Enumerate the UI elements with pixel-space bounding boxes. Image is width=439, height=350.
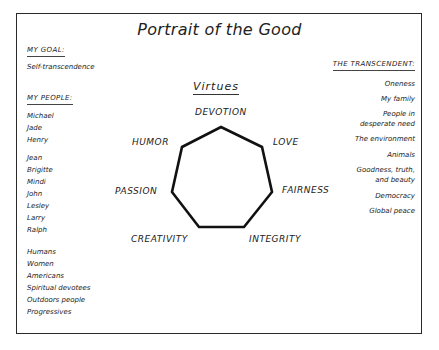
virtue-love: Love [273,137,299,147]
virtue-fairness: Fairness [282,185,329,195]
virtue-passion: Passion [115,186,157,196]
virtues-heptagon [0,0,439,350]
virtue-creativity: Creativity [131,234,188,244]
virtue-devotion: Devotion [195,107,247,117]
virtue-integrity: Integrity [249,234,301,244]
virtue-humor: Humor [132,137,169,147]
